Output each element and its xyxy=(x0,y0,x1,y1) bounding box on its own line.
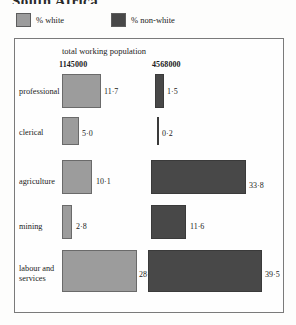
bar-value-white: 10·1 xyxy=(96,177,111,186)
bar-value-nonwhite: 1·5 xyxy=(167,87,178,96)
bar-nonwhite xyxy=(155,74,164,108)
bar-white xyxy=(62,205,72,239)
bar-white xyxy=(62,250,137,292)
page-title: South Africa xyxy=(12,0,98,4)
category-label: clerical xyxy=(19,128,43,138)
bar-value-nonwhite: 33·8 xyxy=(249,181,264,190)
bar-nonwhite xyxy=(148,250,262,292)
bar-value-nonwhite: 0·2 xyxy=(162,129,173,138)
bar-white xyxy=(62,117,79,145)
category-label: mining xyxy=(19,222,43,232)
white-total-population: 1145000 xyxy=(59,60,87,69)
bar-white xyxy=(62,160,92,194)
bar-value-nonwhite: 39·5 xyxy=(265,270,280,279)
legend-item-nonwhite: % non-white xyxy=(111,13,175,27)
bar-nonwhite xyxy=(151,205,186,239)
legend-item-white: % white xyxy=(16,13,64,27)
category-label: professional xyxy=(19,87,60,97)
square-swatch-light-icon xyxy=(16,13,31,27)
bar-value-nonwhite: 11·6 xyxy=(190,222,204,231)
bar-value-white: 11·7 xyxy=(104,87,118,96)
bar-nonwhite xyxy=(157,117,159,145)
square-swatch-dark-icon xyxy=(111,13,126,27)
bar-value-white: 2·8 xyxy=(76,222,87,231)
category-label: agriculture xyxy=(19,177,55,187)
category-label: labour and services xyxy=(19,264,54,283)
legend-label-white: % white xyxy=(36,15,64,25)
bar-white xyxy=(62,74,101,108)
nonwhite-total-population: 4568000 xyxy=(152,60,181,69)
legend: % white % non-white xyxy=(16,13,175,27)
bar-nonwhite xyxy=(151,160,246,194)
chart-subtitle: total working population xyxy=(62,46,146,56)
legend-label-nonwhite: % non-white xyxy=(131,15,175,25)
bar-value-white: 5·0 xyxy=(82,129,93,138)
